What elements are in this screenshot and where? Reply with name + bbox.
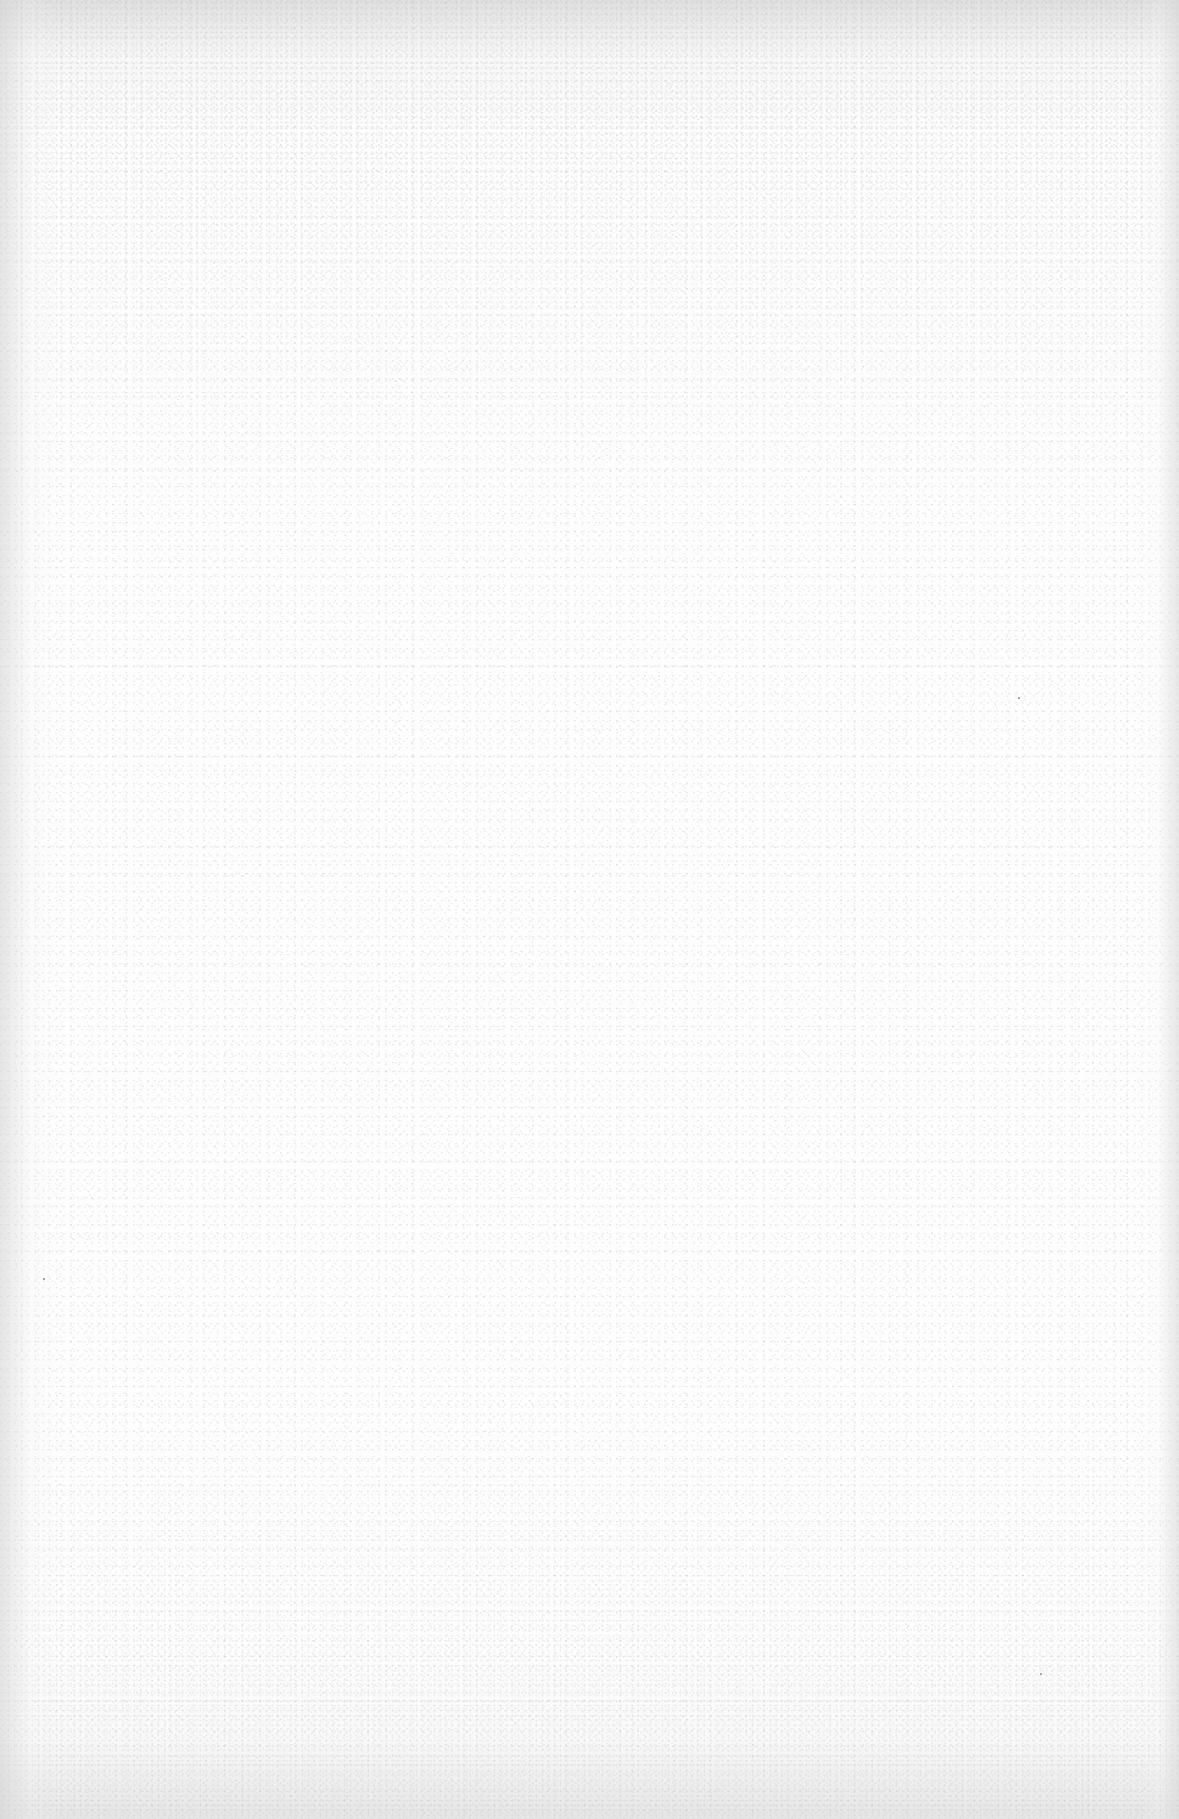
- scan-edge-right: [1139, 0, 1179, 1819]
- scan-edge-top: [0, 0, 1179, 140]
- paper-grain-bottom: [0, 1399, 1179, 1819]
- scan-edge-bottom: [0, 1639, 1179, 1819]
- dust-speck: [1018, 697, 1020, 699]
- paper-grain-top: [0, 0, 1179, 520]
- scan-edge-left: [0, 0, 60, 1819]
- paper-grain: [0, 0, 1179, 1819]
- blank-scanned-page: [0, 0, 1179, 1819]
- dust-speck: [43, 1278, 45, 1280]
- dust-speck: [1040, 1673, 1042, 1675]
